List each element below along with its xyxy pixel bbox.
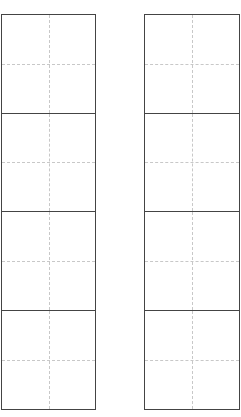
grid-cell[interactable] [145, 114, 239, 213]
grid-cell[interactable] [2, 114, 95, 213]
grid-cell[interactable] [2, 212, 95, 311]
horizontal-guide-line [145, 261, 239, 262]
grid-cell[interactable] [145, 212, 239, 311]
horizontal-guide-line [2, 360, 95, 361]
grid-cell[interactable] [145, 15, 239, 114]
grid-column-right [144, 14, 240, 410]
horizontal-guide-line [2, 261, 95, 262]
grid-cell[interactable] [145, 311, 239, 410]
horizontal-guide-line [145, 360, 239, 361]
grid-cell[interactable] [2, 15, 95, 114]
horizontal-guide-line [2, 162, 95, 163]
grid-cell[interactable] [2, 311, 95, 410]
grid-column-left [1, 14, 96, 410]
horizontal-guide-line [145, 64, 239, 65]
horizontal-guide-line [145, 162, 239, 163]
horizontal-guide-line [2, 64, 95, 65]
